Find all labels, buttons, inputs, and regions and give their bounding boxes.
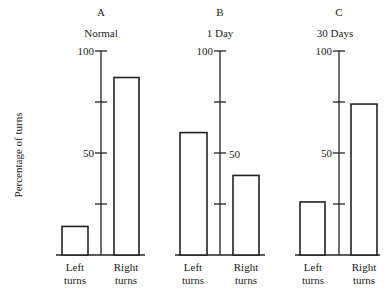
- panel-c-left-label: Left turns: [302, 261, 324, 287]
- panel-b-left-line1: Left: [182, 261, 204, 274]
- panel-b-tick-100: 100: [197, 45, 214, 57]
- panel-b-left-label: Left turns: [182, 261, 204, 287]
- panel-c-title: 30 Days: [317, 27, 353, 39]
- panel-b-left-turns-bar: [180, 133, 207, 255]
- panel-a-right-label: Right turns: [114, 261, 138, 287]
- panel-a-right-turns-bar: [114, 78, 139, 255]
- panel-a-left-turns-bar: [62, 226, 88, 255]
- panel-c-tick-50: 50: [321, 147, 332, 159]
- panel-a-left-line1: Left: [64, 261, 86, 274]
- panel-c-left-turns-bar: [300, 202, 325, 255]
- panel-c-left-line1: Left: [302, 261, 324, 274]
- panel-b-tick-50: 50: [229, 148, 240, 160]
- panel-a-tick-100: 100: [78, 45, 95, 57]
- panel-c-right-line1: Right: [352, 261, 376, 274]
- panel-b-title: 1 Day: [207, 27, 234, 39]
- panel-a-title: Normal: [84, 27, 118, 39]
- panel-b-letter: B: [216, 6, 223, 18]
- panel-b-left-line2: turns: [182, 274, 204, 287]
- panel-a-right-line2: turns: [114, 274, 138, 287]
- panel-b-right-turns-bar: [233, 175, 259, 255]
- panel-c-right-line2: turns: [352, 274, 376, 287]
- panel-a-left-line2: turns: [64, 274, 86, 287]
- panel-a-left-label: Left turns: [64, 261, 86, 287]
- panel-c-tick-100: 100: [316, 45, 333, 57]
- panel-a-tick-50: 50: [83, 147, 94, 159]
- panel-b-right-line1: Right: [234, 261, 258, 274]
- panel-a-letter: A: [97, 6, 105, 18]
- panel-b-right-label: Right turns: [234, 261, 258, 287]
- panel-c-letter: C: [335, 6, 342, 18]
- panel-c-right-label: Right turns: [352, 261, 376, 287]
- panel-c-left-line2: turns: [302, 274, 324, 287]
- panel-a-right-line1: Right: [114, 261, 138, 274]
- panel-b-right-line2: turns: [234, 274, 258, 287]
- panel-c-right-turns-bar: [351, 104, 377, 255]
